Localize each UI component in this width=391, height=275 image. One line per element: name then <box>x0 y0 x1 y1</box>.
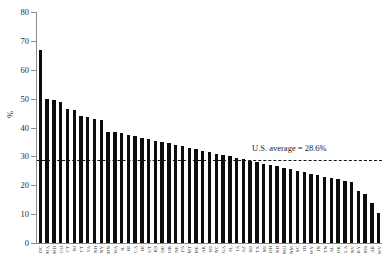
x-tick-label: AZ <box>241 246 246 253</box>
x-tick-label: TX <box>254 246 259 253</box>
bar-slot <box>51 12 58 243</box>
bar <box>39 50 42 243</box>
us-average-label: U.S. average = 28.6% <box>252 143 327 153</box>
x-tick-label: NV <box>349 246 354 253</box>
x-label-slot: WY <box>308 245 315 275</box>
bar-chart: % 80706050403020100 U.S. average = 28.6%… <box>0 0 391 275</box>
bar <box>289 169 292 243</box>
x-label-slot: DE <box>159 245 166 275</box>
x-tick-label: AR <box>369 246 374 253</box>
bar-slot <box>37 12 44 243</box>
x-tick-label: CO <box>58 246 63 253</box>
x-tick-label: IL <box>119 246 124 251</box>
x-label-slot: PA <box>179 245 186 275</box>
x-tick-label: ND <box>275 246 280 253</box>
x-tick-label: OK <box>336 246 341 253</box>
bar <box>357 191 360 243</box>
x-tick-label: HI <box>139 246 144 251</box>
bar-slot <box>118 12 125 243</box>
bar-slot <box>179 12 186 243</box>
x-axis-line <box>36 243 382 244</box>
bar <box>113 132 116 243</box>
bar <box>133 136 136 243</box>
y-tick-mark <box>31 185 36 186</box>
x-label-slot: VA <box>84 245 91 275</box>
bar-slot <box>281 12 288 243</box>
x-label-slot: TX <box>254 245 261 275</box>
y-tick-label: 70 <box>3 37 29 46</box>
x-tick-label: MA <box>45 246 50 254</box>
bar-slot <box>71 12 78 243</box>
x-tick-label: ME <box>193 246 198 254</box>
x-label-slot: KY <box>355 245 362 275</box>
bar <box>45 99 48 243</box>
x-label-slot: MS <box>362 245 369 275</box>
bar-slot <box>199 12 206 243</box>
bar <box>303 172 306 243</box>
x-tick-label: OH <box>268 246 273 253</box>
x-tick-label: MO <box>281 246 286 254</box>
x-tick-label: KS <box>153 246 158 252</box>
bar-slot <box>328 12 335 243</box>
bar-slot <box>105 12 112 243</box>
bar <box>140 138 143 243</box>
x-label-slot: ND <box>274 245 281 275</box>
x-label-slot: MD <box>51 245 58 275</box>
x-tick-label: SC <box>295 246 300 252</box>
x-label-slot: MO <box>281 245 288 275</box>
y-tick-mark <box>31 12 36 13</box>
bar <box>106 132 109 243</box>
bar <box>255 162 258 243</box>
x-label-slot: WI <box>206 245 213 275</box>
x-tick-label: MI <box>261 246 266 252</box>
bar <box>221 155 224 243</box>
x-tick-label: KY <box>356 246 361 253</box>
bar <box>296 171 299 243</box>
bar-slot <box>362 12 369 243</box>
bar-slot <box>132 12 139 243</box>
x-label-slot: SC <box>294 245 301 275</box>
bar-slot <box>274 12 281 243</box>
bar-slot <box>145 12 152 243</box>
x-tick-label: MS <box>363 246 368 253</box>
bar <box>79 116 82 243</box>
bar-slot <box>193 12 200 243</box>
bar-slot <box>301 12 308 243</box>
x-tick-label: VA <box>85 246 90 253</box>
x-tick-label: ID <box>302 246 307 251</box>
bar-slot <box>159 12 166 243</box>
bar-slot <box>226 12 233 243</box>
bar <box>323 177 326 243</box>
bar-slot <box>152 12 159 243</box>
bar-slot <box>321 12 328 243</box>
bar <box>377 213 380 243</box>
bar-slot <box>260 12 267 243</box>
bar-slot <box>335 12 342 243</box>
x-tick-label: NC <box>214 246 219 253</box>
bar <box>370 203 373 243</box>
x-tick-label: NH <box>92 246 97 253</box>
y-tick-label: 0 <box>3 239 29 248</box>
x-tick-label: MT <box>187 246 192 254</box>
y-tick-mark <box>31 243 36 244</box>
x-tick-label: GA <box>221 246 226 253</box>
bar-slot <box>138 12 145 243</box>
x-label-slot: CA <box>132 245 139 275</box>
x-tick-label: RI <box>126 246 131 251</box>
y-tick-label: 60 <box>3 66 29 75</box>
bar <box>235 158 238 243</box>
bar-slot <box>64 12 71 243</box>
bar <box>167 143 170 243</box>
bar <box>59 102 62 243</box>
bar-slot <box>206 12 213 243</box>
x-tick-label: IA <box>234 246 239 251</box>
x-label-slot: IN <box>314 245 321 275</box>
x-tick-label: AK <box>200 246 205 253</box>
x-label-slot: MT <box>186 245 193 275</box>
y-tick-mark <box>31 156 36 157</box>
x-tick-label: CA <box>133 246 138 253</box>
bar <box>275 166 278 243</box>
bar <box>188 148 191 243</box>
x-tick-label: NE <box>173 246 178 253</box>
bar-slot <box>348 12 355 243</box>
